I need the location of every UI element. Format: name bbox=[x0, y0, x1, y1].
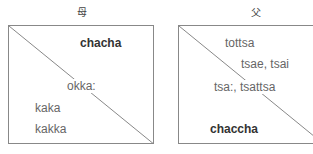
mother-box: chacha okka: kaka kakka bbox=[8, 25, 154, 144]
label-chaccha: chaccha bbox=[208, 122, 260, 136]
label-okka: okka: bbox=[65, 79, 98, 93]
label-tsae-tsai: tsae, tsai bbox=[239, 57, 291, 71]
father-box: tottsa tsae, tsai tsa:, tsattsa chaccha bbox=[178, 25, 313, 144]
label-kakka: kakka bbox=[33, 122, 68, 136]
mother-title: 母 bbox=[72, 4, 92, 19]
label-tottsa: tottsa bbox=[223, 36, 256, 50]
label-kaka: kaka bbox=[33, 101, 62, 115]
father-title: 父 bbox=[246, 4, 266, 19]
label-tsa-tsattsa: tsa:, tsattsa bbox=[212, 80, 277, 94]
label-chacha: chacha bbox=[78, 36, 123, 50]
